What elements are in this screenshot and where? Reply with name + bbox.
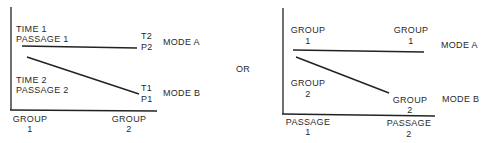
- right-x-tick-2-line2: 2: [406, 129, 411, 139]
- right-panel: GROUP 1 GROUP 1 GROUP 2 GROUP 2 MODE A M…: [282, 8, 479, 139]
- right-top-left-group-line2: 1: [305, 36, 310, 46]
- label-t1: T1: [141, 83, 152, 93]
- right-bottom-left-group-line2: 2: [305, 89, 310, 99]
- label-p1: P1: [141, 94, 153, 104]
- interaction-diagram: TIME 1 PASSAGE 1 TIME 2 PASSAGE 2 T2 P2 …: [0, 0, 483, 143]
- label-time-2: TIME 2: [16, 75, 47, 85]
- right-bottom-left-group-line1: GROUP: [291, 78, 326, 88]
- left-x-tick-1-line2: 1: [27, 124, 32, 134]
- right-x-tick-2-line1: PASSAGE: [387, 118, 431, 128]
- right-bottom-right-group-line2: 2: [407, 105, 412, 115]
- label-passage-1: PASSAGE 1: [16, 34, 69, 44]
- right-top-right-group-line1: GROUP: [394, 25, 429, 35]
- label-p2: P2: [141, 42, 153, 52]
- left-x-axis: [10, 110, 157, 111]
- left-x-tick-2-line2: 2: [126, 124, 131, 134]
- or-separator: OR: [236, 64, 250, 74]
- left-x-tick-1-line1: GROUP: [13, 114, 48, 124]
- right-mode-a-line: [293, 50, 424, 52]
- left-x-tick-2-line1: GROUP: [112, 114, 147, 124]
- label-t2: T2: [141, 31, 152, 41]
- left-mode-a-label: MODE A: [163, 37, 200, 47]
- left-mode-b-label: MODE B: [163, 88, 200, 98]
- right-bottom-right-group-line1: GROUP: [393, 95, 428, 105]
- left-panel: TIME 1 PASSAGE 1 TIME 2 PASSAGE 2 T2 P2 …: [10, 7, 200, 134]
- label-passage-2: PASSAGE 2: [16, 85, 69, 95]
- right-x-tick-1-line2: 1: [305, 127, 310, 137]
- right-top-left-group-line1: GROUP: [291, 25, 326, 35]
- right-mode-b-label: MODE B: [442, 94, 479, 104]
- label-time-1: TIME 1: [16, 24, 47, 34]
- right-x-tick-1-line1: PASSAGE: [286, 117, 330, 127]
- right-top-right-group-line2: 1: [408, 36, 413, 46]
- left-mode-a-line: [22, 46, 137, 48]
- right-mode-a-label: MODE A: [441, 40, 478, 50]
